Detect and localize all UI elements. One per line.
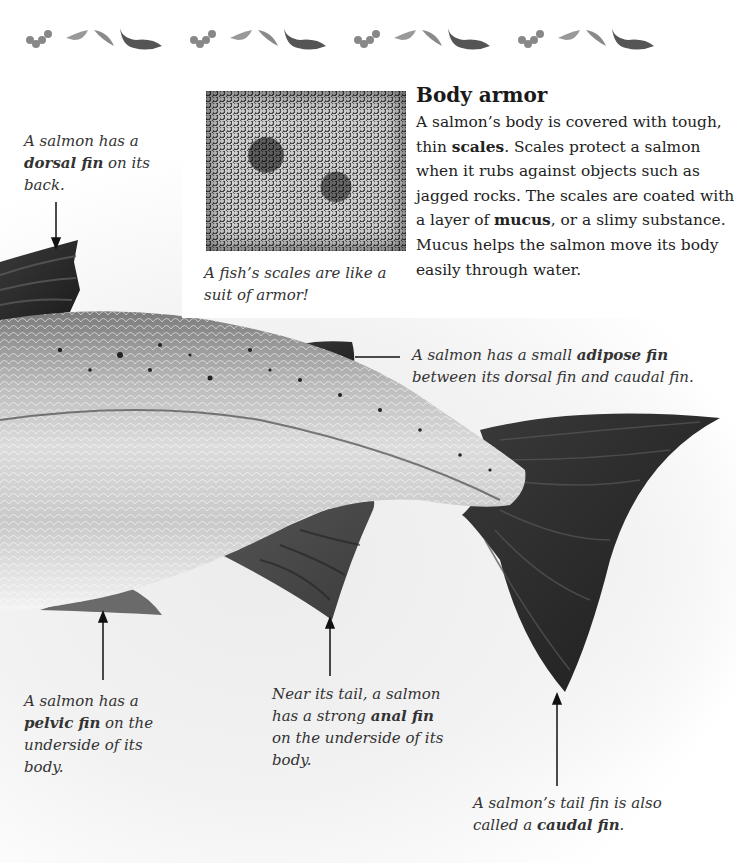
photo-caption: A fish’s scales are like a suit of armor… xyxy=(204,262,404,306)
term-mucus: mucus xyxy=(494,211,551,229)
term-scales: scales xyxy=(452,138,504,156)
fish-scales-photo xyxy=(206,91,406,251)
callout-caudal-fin: A salmon’s tail fin is also called a cau… xyxy=(473,792,673,836)
callout-anal-fin: Near its tail, a salmon has a strong ana… xyxy=(272,683,452,771)
callout-dorsal-fin: A salmon has a dorsal fin on its back. xyxy=(24,130,174,196)
callout-adipose-fin: A salmon has a small adipose fin between… xyxy=(412,344,732,388)
callout-pelvic-fin: A salmon has a pelvic fin on the undersi… xyxy=(24,690,184,778)
section-body: A salmon’s body is covered with tough, t… xyxy=(416,110,736,282)
section-heading: Body armor xyxy=(416,83,547,107)
